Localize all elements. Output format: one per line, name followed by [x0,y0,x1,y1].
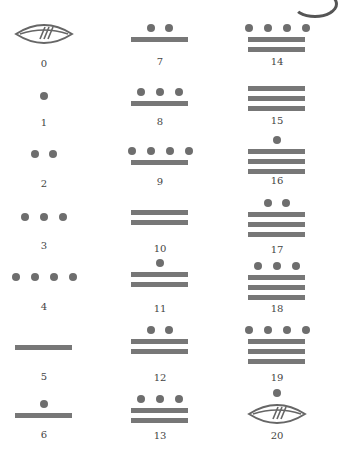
dot-icon [147,24,155,32]
numeral-label: 19 [237,372,317,383]
dot-icon [21,213,29,221]
bar-icon [131,418,188,423]
bar-icon [131,220,188,225]
dot-icon [31,273,39,281]
bar-icon [248,222,305,227]
numeral-label: 16 [237,175,317,186]
bar-icon [248,149,305,154]
dot-icon [264,199,272,207]
numeral-label: 9 [120,176,200,187]
dot-icon [12,273,20,281]
dot-icon [302,326,310,334]
numeral-label: 4 [4,301,84,312]
bar-icon [131,210,188,215]
dot-icon [137,395,145,403]
dot-icon [165,24,173,32]
dot-icon [156,259,164,267]
bar-icon [248,275,305,280]
dot-icon [147,326,155,334]
bar-icon [248,86,305,91]
shell-icon [14,22,74,46]
bar-icon [131,160,188,165]
bar-icon [131,282,188,287]
dot-icon [282,199,290,207]
numeral-label: 17 [237,244,317,255]
bar-icon [15,413,72,418]
dot-icon [137,88,145,96]
dot-icon [292,262,300,270]
numeral-label: 18 [237,303,317,314]
bar-icon [248,285,305,290]
shell-icon [247,402,307,426]
numeral-label: 2 [4,178,84,189]
numeral-label: 11 [120,303,200,314]
dot-icon [166,147,174,155]
numeral-label: 8 [120,116,200,127]
numeral-label: 12 [120,372,200,383]
bar-icon [248,339,305,344]
dot-icon [40,400,48,408]
dot-icon [147,147,155,155]
bar-icon [131,408,188,413]
dot-icon [165,326,173,334]
dot-icon [175,395,183,403]
bar-icon [131,37,188,42]
dot-icon [49,150,57,158]
bar-icon [131,339,188,344]
bar-icon [248,295,305,300]
dot-icon [175,88,183,96]
bar-icon [131,349,188,354]
dot-icon [156,395,164,403]
dot-icon [69,273,77,281]
numeral-label: 15 [237,115,317,126]
bar-icon [248,169,305,174]
numeral-label: 20 [237,430,317,441]
numeral-label: 0 [4,58,84,69]
numeral-label: 1 [4,117,84,128]
dot-icon [40,92,48,100]
numeral-label: 14 [237,56,317,67]
dot-icon [245,326,253,334]
dot-icon [273,389,281,397]
numeral-label: 10 [120,243,200,254]
bar-icon [131,101,188,106]
dot-icon [283,326,291,334]
bar-icon [248,37,305,42]
bar-icon [248,106,305,111]
bar-icon [248,349,305,354]
dot-icon [254,262,262,270]
bar-icon [248,47,305,52]
dot-icon [59,213,67,221]
numeral-label: 3 [4,240,84,251]
dot-icon [273,262,281,270]
bar-icon [248,212,305,217]
bar-icon [131,272,188,277]
dot-icon [128,147,136,155]
bar-icon [248,96,305,101]
bar-icon [248,159,305,164]
dot-icon [50,273,58,281]
dot-icon [264,326,272,334]
bar-icon [248,232,305,237]
bar-icon [248,359,305,364]
dot-icon [302,24,310,32]
bar-icon [15,345,72,350]
numeral-label: 5 [4,371,84,382]
numeral-label: 7 [120,56,200,67]
numeral-label: 6 [4,429,84,440]
numeral-label: 13 [120,430,200,441]
dot-icon [245,24,253,32]
partial-shell-corner-icon [292,0,338,18]
dot-icon [40,213,48,221]
dot-icon [185,147,193,155]
dot-icon [264,24,272,32]
dot-icon [156,88,164,96]
dot-icon [273,136,281,144]
dot-icon [31,150,39,158]
dot-icon [283,24,291,32]
